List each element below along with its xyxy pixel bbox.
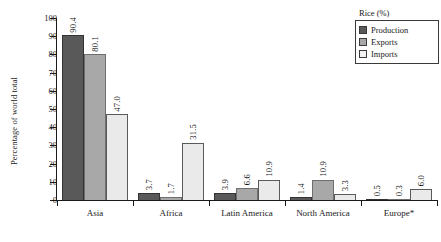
- bar-production[interactable]: [366, 199, 388, 200]
- bar-value-label: 90.4: [68, 17, 78, 33]
- legend-item-imports[interactable]: Imports: [359, 48, 434, 60]
- bar-exports[interactable]: [84, 54, 106, 200]
- y-tick-label: 10: [13, 176, 57, 186]
- bar-production[interactable]: [290, 197, 312, 200]
- y-tick-label: 40: [13, 122, 57, 132]
- legend-title: Rice (%): [359, 8, 439, 18]
- bar-slot: 3.9: [214, 18, 236, 200]
- y-tick-60: 60: [0, 91, 57, 92]
- y-tick-100: 100: [0, 18, 57, 19]
- x-axis-separator: [361, 200, 362, 206]
- rice-world-total-bar-chart: Percentage of world total 01020304050607…: [0, 0, 441, 242]
- x-axis-separator: [133, 200, 134, 206]
- bar-value-label: 3.9: [220, 179, 230, 190]
- bar-slot: 47.0: [106, 18, 128, 200]
- x-axis-separator: [209, 200, 210, 206]
- x-axis-separator: [285, 200, 286, 206]
- y-tick-label: 70: [13, 67, 57, 77]
- bar-exports[interactable]: [236, 188, 258, 200]
- bar-slot: 90.4: [62, 18, 84, 200]
- bar-exports[interactable]: [388, 199, 410, 200]
- bar-imports[interactable]: [258, 180, 280, 200]
- bar-value-label: 10.9: [318, 161, 328, 177]
- bar-value-label: 3.7: [144, 179, 154, 190]
- bar-group: 3.96.610.9Latin America: [209, 18, 285, 200]
- bar-imports[interactable]: [334, 194, 356, 200]
- bar-imports[interactable]: [106, 114, 128, 200]
- y-tick-label: 80: [13, 49, 57, 59]
- bar-exports[interactable]: [160, 197, 182, 200]
- bar-value-label: 1.4: [296, 183, 306, 194]
- bar-value-label: 3.3: [340, 180, 350, 191]
- bar-slot: 10.9: [258, 18, 280, 200]
- x-axis-group-label: Latin America: [209, 208, 285, 218]
- legend-label-production: Production: [371, 25, 408, 35]
- bar-group-bars: 3.96.610.9: [209, 18, 285, 200]
- y-tick-label: 90: [13, 31, 57, 41]
- y-tick-30: 30: [0, 145, 57, 146]
- bar-slot: 1.7: [160, 18, 182, 200]
- bar-value-label: 6.0: [416, 175, 426, 186]
- y-tick-label: 0: [13, 195, 57, 205]
- bar-value-label: 31.5: [188, 124, 198, 140]
- legend-label-exports: Exports: [371, 37, 397, 47]
- bar-value-label: 6.6: [242, 174, 252, 185]
- bar-production[interactable]: [62, 35, 84, 200]
- bar-imports[interactable]: [182, 143, 204, 200]
- bar-group: 3.71.731.5Africa: [133, 18, 209, 200]
- bar-slot: 80.1: [84, 18, 106, 200]
- bar-slot: 1.4: [290, 18, 312, 200]
- y-tick-label: 30: [13, 140, 57, 150]
- x-axis-line: [56, 200, 437, 201]
- x-axis-group-label: Africa: [133, 208, 209, 218]
- y-tick-label: 60: [13, 85, 57, 95]
- legend-item-exports[interactable]: Exports: [359, 36, 434, 48]
- y-tick-40: 40: [0, 127, 57, 128]
- y-tick-label: 20: [13, 158, 57, 168]
- bar-value-label: 80.1: [90, 36, 100, 52]
- bar-slot: 3.3: [334, 18, 356, 200]
- bar-value-label: 10.9: [264, 161, 274, 177]
- bar-slot: 10.9: [312, 18, 334, 200]
- y-tick-20: 20: [0, 164, 57, 165]
- x-axis-group-label: Europe*: [361, 208, 437, 218]
- legend-swatch-exports-icon: [359, 38, 367, 46]
- legend-swatch-imports-icon: [359, 50, 367, 58]
- x-axis-group-label: Asia: [57, 208, 133, 218]
- x-axis-group-label: North America: [285, 208, 361, 218]
- y-tick-label: 100: [13, 13, 57, 23]
- bar-value-label: 1.7: [166, 183, 176, 194]
- y-tick-0: 0: [0, 200, 57, 201]
- x-axis-separator: [57, 200, 58, 206]
- bar-group-bars: 3.71.731.5: [133, 18, 209, 200]
- y-tick-70: 70: [0, 73, 57, 74]
- x-axis-separator: [437, 200, 438, 206]
- y-tick-label: 50: [13, 104, 57, 114]
- bar-production[interactable]: [214, 193, 236, 200]
- bar-group: 1.410.93.3North America: [285, 18, 361, 200]
- legend-box: Production Exports Imports: [355, 20, 439, 64]
- bar-production[interactable]: [138, 193, 160, 200]
- y-tick-10: 10: [0, 182, 57, 183]
- bar-value-label: 0.5: [372, 185, 382, 196]
- legend-item-production[interactable]: Production: [359, 24, 434, 36]
- bar-value-label: 0.3: [394, 185, 404, 196]
- y-tick-90: 90: [0, 36, 57, 37]
- bar-slot: 31.5: [182, 18, 204, 200]
- legend-label-imports: Imports: [371, 49, 397, 59]
- bar-group: 90.480.147.0Asia: [57, 18, 133, 200]
- legend-swatch-production-icon: [359, 26, 367, 34]
- bar-group-bars: 90.480.147.0: [57, 18, 133, 200]
- bar-imports[interactable]: [410, 189, 432, 200]
- bar-group-bars: 1.410.93.3: [285, 18, 361, 200]
- y-tick-50: 50: [0, 109, 57, 110]
- bar-slot: 6.6: [236, 18, 258, 200]
- y-tick-80: 80: [0, 54, 57, 55]
- legend: Rice (%) Production Exports Imports: [355, 8, 439, 64]
- bar-value-label: 47.0: [112, 96, 122, 112]
- bar-exports[interactable]: [312, 180, 334, 200]
- bar-slot: 3.7: [138, 18, 160, 200]
